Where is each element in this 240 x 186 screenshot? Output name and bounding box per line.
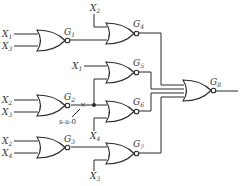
input-label-x1: X1 (1, 29, 12, 40)
inversion-bubble (134, 109, 139, 114)
gate-label-g1: G1 (64, 27, 75, 38)
gate-label-g3: G3 (64, 134, 75, 145)
gate-label-g5: G5 (133, 58, 144, 69)
input-label-x4: X4 (89, 131, 100, 142)
inversion-bubble (65, 103, 70, 108)
input-label-x3: X3 (1, 41, 12, 52)
input-label-x2: X2 (1, 95, 12, 106)
gate-label-g8: G8 (210, 77, 221, 88)
nor-gate-shape (106, 23, 134, 44)
nor-gate-shape (37, 95, 65, 116)
input-label-x3: X3 (89, 171, 100, 182)
fault-arrow (72, 109, 80, 117)
wire-g7-to-g8 (139, 97, 184, 153)
wire-x4-to-g6 (94, 118, 107, 131)
nor-gate-shape (183, 80, 211, 101)
input-label-x1: X1 (71, 61, 82, 72)
inversion-bubble (65, 38, 70, 43)
gate-label-g4: G4 (133, 19, 144, 30)
inversion-bubble (65, 145, 70, 150)
nor-gate-shape (106, 101, 134, 122)
input-label-x2: X2 (1, 136, 12, 147)
inversion-bubble (134, 151, 139, 156)
logic-circuit-diagram: × s-a-0 G1 G2 G3 G4 G5 G6 (0, 0, 240, 186)
fault-label: s-a-0 (59, 118, 76, 126)
input-label-x2: X2 (89, 3, 100, 14)
wire-x2-to-g4 (94, 14, 107, 27)
junction-dot (92, 103, 96, 107)
input-label-x4: X4 (1, 148, 12, 159)
input-label-x3: X3 (1, 107, 12, 118)
nor-gate-shape (37, 137, 65, 158)
wire-g4-to-g8 (139, 33, 184, 85)
inversion-bubble (211, 88, 216, 93)
gate-label-g6: G6 (133, 97, 144, 108)
fault-mark: × (80, 101, 86, 109)
wire-x3-to-g7 (94, 160, 107, 171)
inversion-bubble (134, 70, 139, 75)
nor-gate-shape (106, 143, 134, 164)
nor-gate-shape (37, 30, 65, 51)
gate-label-g2: G2 (64, 92, 75, 103)
gate-label-g7: G7 (133, 139, 144, 150)
wire-g2-to-g5 (94, 79, 107, 105)
inversion-bubble (134, 31, 139, 36)
nor-gate-shape (106, 62, 134, 83)
